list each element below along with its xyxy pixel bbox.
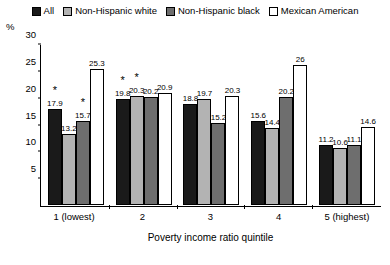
legend-swatch-icon <box>63 7 72 16</box>
legend-item-label: Mexican American <box>281 6 359 16</box>
bar-value-label: 20.9 <box>157 83 173 92</box>
bar-slot: 17.9* <box>48 45 62 205</box>
bar-value-label: 15.7 <box>75 111 91 120</box>
bar[interactable] <box>48 109 62 205</box>
y-axis-tick-label: 25 <box>2 57 41 67</box>
x-axis-tick-label: 1 (lowest) <box>40 211 108 222</box>
bar-value-label: 19.7 <box>197 89 213 98</box>
bar[interactable] <box>265 128 279 205</box>
bar[interactable] <box>76 121 90 205</box>
bar-value-label: 17.9 <box>47 99 63 108</box>
bar[interactable] <box>361 127 375 205</box>
y-axis-tick-mark <box>38 178 41 179</box>
bar[interactable] <box>62 134 76 205</box>
y-axis-tick-mark <box>38 124 41 125</box>
bar-value-label: 14.4 <box>264 118 280 127</box>
bar[interactable] <box>183 104 197 205</box>
bar-slot: 25.3 <box>90 45 104 205</box>
bar-slot: 11.2 <box>319 45 333 205</box>
bar[interactable] <box>158 93 172 205</box>
bar[interactable] <box>319 145 333 205</box>
x-axis-label: Poverty income ratio quintile <box>40 232 381 244</box>
x-axis-tick-mark <box>177 205 178 209</box>
bar-groups: 17.9*13.215.7*25.319.8*20.3*20.220.918.8… <box>42 45 381 205</box>
significance-marker: * <box>53 87 57 93</box>
x-axis-tick-mark <box>244 205 245 209</box>
bar-value-label: 10.6 <box>332 138 348 147</box>
bar-slot: 14.6 <box>361 45 375 205</box>
y-axis-tick-mark <box>38 151 41 152</box>
bar[interactable] <box>225 96 239 205</box>
bar-slot: 20.3 <box>225 45 239 205</box>
y-axis-tick-label: 10 <box>2 137 41 147</box>
bar[interactable] <box>90 69 104 205</box>
bar[interactable] <box>347 145 361 205</box>
plot-area: 51015202530 17.9*13.215.7*25.319.8*20.3*… <box>40 45 381 207</box>
legend-item-1: Non-Hispanic white <box>63 6 157 16</box>
y-axis-tick-label: 30 <box>2 30 41 40</box>
legend-swatch-icon <box>32 7 41 16</box>
bar-slot: 11.1 <box>347 45 361 205</box>
bar[interactable] <box>197 99 211 205</box>
bar-value-label: 13.2 <box>61 124 77 133</box>
bar-slot: 20.3* <box>130 45 144 205</box>
x-axis-tick-label: 3 <box>176 211 244 222</box>
bar-slot: 19.7 <box>197 45 211 205</box>
y-axis-tick-mark <box>38 44 41 45</box>
significance-marker: * <box>81 99 85 105</box>
legend-item-label: Non-Hispanic white <box>75 6 157 16</box>
bar-slot: 20.9 <box>158 45 172 205</box>
bar-value-label: 20.2 <box>278 87 294 96</box>
legend-item-0: All <box>32 6 55 16</box>
legend-swatch-icon <box>269 7 278 16</box>
bar-value-label: 15.2 <box>211 113 227 122</box>
bar-group-2: 19.8*20.3*20.220.9 <box>110 45 178 205</box>
bar[interactable] <box>251 121 265 205</box>
bar[interactable] <box>279 97 293 205</box>
bar-slot: 20.2 <box>279 45 293 205</box>
bar-slot: 26 <box>293 45 307 205</box>
significance-marker: * <box>135 74 139 80</box>
x-axis-tick-mark <box>109 205 110 209</box>
bar-value-label: 11.1 <box>347 135 362 144</box>
bar-slot: 15.6 <box>251 45 265 205</box>
y-axis-tick-mark <box>38 70 41 71</box>
bar[interactable] <box>116 99 130 205</box>
y-axis-tick-label: 20 <box>2 84 41 94</box>
bar[interactable] <box>211 123 225 205</box>
legend-swatch-icon <box>166 7 175 16</box>
bar-slot: 18.8 <box>183 45 197 205</box>
x-axis-tick-labels: 1 (lowest)2345 (highest) <box>40 211 381 222</box>
bar-slot: 19.8* <box>116 45 130 205</box>
bar-value-label: 20.3 <box>225 86 241 95</box>
bar-group-3: 18.819.715.220.3 <box>178 45 246 205</box>
bar-slot: 10.6 <box>333 45 347 205</box>
legend-item-2: Non-Hispanic black <box>166 6 260 16</box>
bar-group-4: 15.614.420.226 <box>245 45 313 205</box>
y-axis-tick-mark <box>38 97 41 98</box>
significance-marker: * <box>121 77 125 83</box>
bar-slot: 20.2 <box>144 45 158 205</box>
legend-item-label: Non-Hispanic black <box>178 6 260 16</box>
legend-item-3: Mexican American <box>269 6 359 16</box>
bar[interactable] <box>130 96 144 205</box>
bar-slot: 15.7* <box>76 45 90 205</box>
y-axis-tick-label: 15 <box>2 111 41 121</box>
bar-slot: 14.4 <box>265 45 279 205</box>
y-axis-tick-label: 5 <box>2 164 41 174</box>
x-axis-tick-label: 4 <box>245 211 313 222</box>
bar-value-label: 25.3 <box>89 59 105 68</box>
x-axis-tick-label: 5 (highest) <box>313 211 381 222</box>
bar-group-5: 11.210.611.114.6 <box>313 45 381 205</box>
bar-slot: 15.2 <box>211 45 225 205</box>
bar-group-1: 17.9*13.215.7*25.3 <box>42 45 110 205</box>
chart-legend: AllNon-Hispanic whiteNon-Hispanic blackM… <box>0 6 390 16</box>
bar-slot: 13.2 <box>62 45 76 205</box>
bar-value-label: 26 <box>296 55 305 64</box>
x-axis-tick-mark <box>312 205 313 209</box>
bar[interactable] <box>144 97 158 205</box>
x-axis-tick-label: 2 <box>108 211 176 222</box>
bar[interactable] <box>293 65 307 205</box>
bar-value-label: 14.6 <box>360 117 376 126</box>
bar[interactable] <box>333 148 347 205</box>
